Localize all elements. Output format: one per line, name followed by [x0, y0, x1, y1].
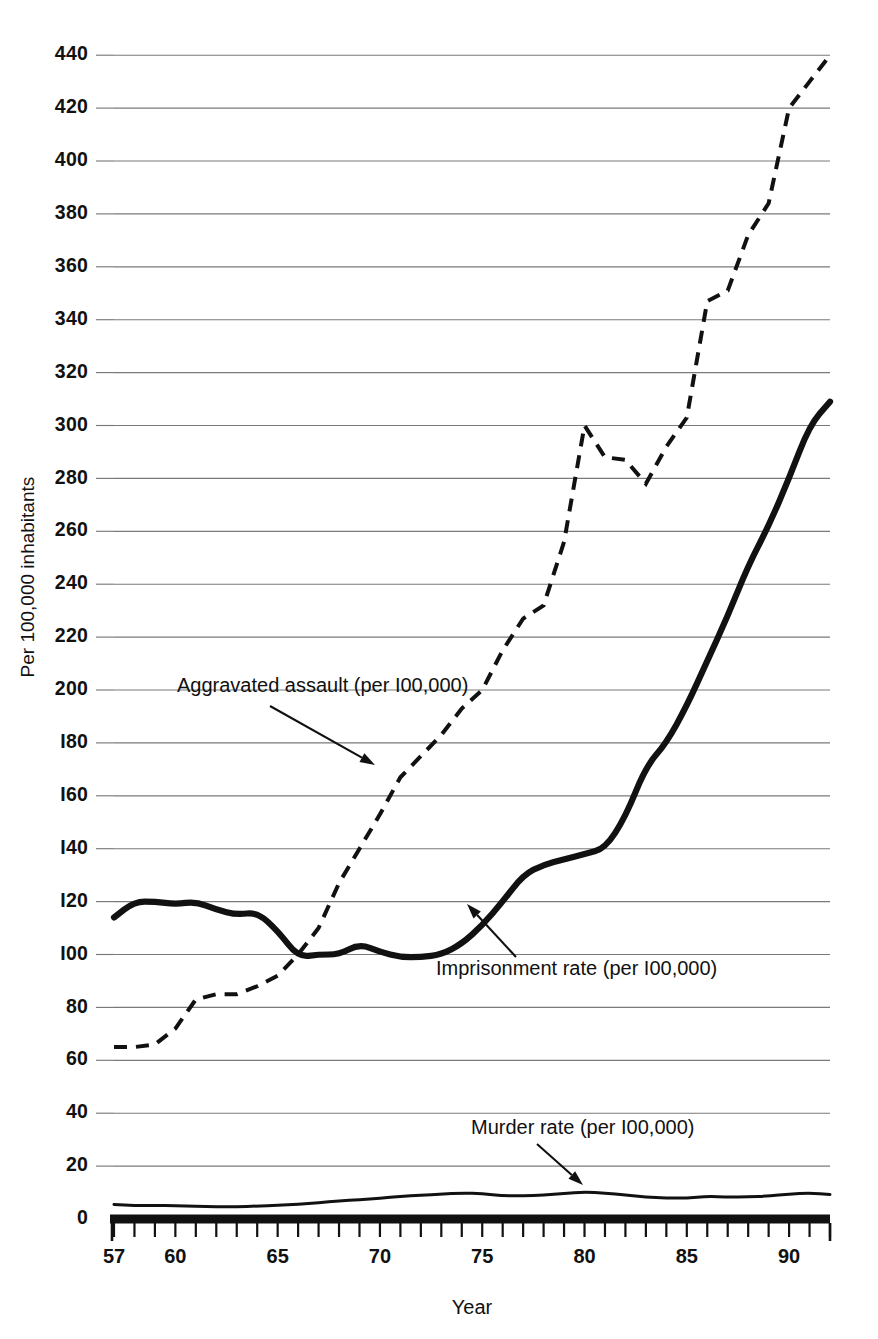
x-tick-label-80: 80: [573, 1245, 595, 1267]
y-tick-label-380: 380: [55, 201, 88, 223]
crime-and-imprisonment-line-chart: 020406080I00I20I40I60I802002202402602803…: [0, 0, 878, 1339]
y-tick-label-220: 220: [55, 624, 88, 646]
y-tick-label-80: 80: [66, 995, 88, 1017]
y-tick-label-340: 340: [55, 307, 88, 329]
chart-background: [0, 0, 878, 1339]
y-tick-label-60: 60: [66, 1047, 88, 1069]
annotation-label-aggravated-assault: Aggravated assault (per I00,000): [177, 674, 468, 696]
y-tick-label-0: 0: [77, 1206, 88, 1228]
y-tick-label-180: I80: [60, 730, 88, 752]
y-tick-label-400: 400: [55, 148, 88, 170]
x-tick-label-65: 65: [267, 1245, 289, 1267]
y-axis-title: Per 100,000 inhabitants: [17, 477, 38, 678]
y-tick-label-280: 280: [55, 466, 88, 488]
y-tick-label-40: 40: [66, 1100, 88, 1122]
y-tick-label-260: 260: [55, 518, 88, 540]
y-tick-label-100: I00: [60, 942, 88, 964]
y-tick-label-20: 20: [66, 1153, 88, 1175]
y-tick-label-120: I20: [60, 889, 88, 911]
x-tick-label-60: 60: [164, 1245, 186, 1267]
x-axis-title: Year: [452, 1296, 493, 1318]
annotation-label-murder-rate: Murder rate (per I00,000): [471, 1116, 694, 1138]
y-tick-label-320: 320: [55, 360, 88, 382]
x-tick-label-90: 90: [778, 1245, 800, 1267]
x-tick-label-57: 57: [103, 1245, 125, 1267]
x-tick-label-70: 70: [369, 1245, 391, 1267]
caption-ghost-fragment: [55, 1320, 59, 1335]
y-tick-label-160: I60: [60, 783, 88, 805]
x-tick-label-75: 75: [471, 1245, 493, 1267]
y-tick-label-440: 440: [55, 42, 88, 64]
y-tick-label-300: 300: [55, 413, 88, 435]
annotation-label-imprisonment-rate: Imprisonment rate (per I00,000): [436, 957, 717, 979]
y-tick-label-240: 240: [55, 571, 88, 593]
chart-figure: 020406080I00I20I40I60I802002202402602803…: [0, 0, 878, 1339]
y-tick-label-140: I40: [60, 836, 88, 858]
y-tick-label-420: 420: [55, 95, 88, 117]
y-tick-label-360: 360: [55, 254, 88, 276]
x-tick-label-85: 85: [676, 1245, 698, 1267]
y-tick-label-200: 200: [55, 677, 88, 699]
